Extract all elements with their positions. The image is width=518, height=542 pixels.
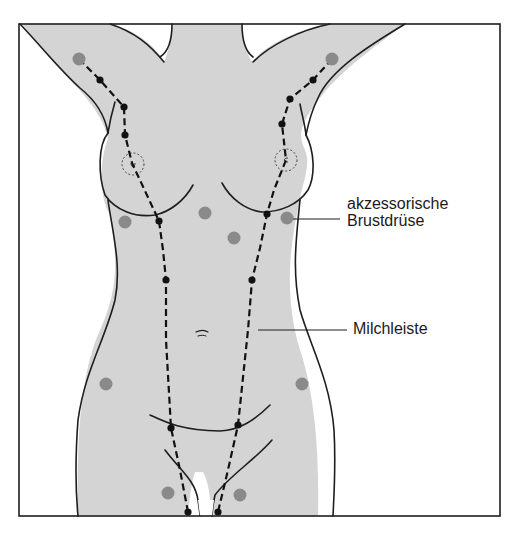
accessory-gland-dot — [119, 216, 132, 229]
milk-line-dot — [155, 217, 162, 224]
milk-line-dot — [214, 508, 221, 515]
accessory-gland-label: akzessorische Brustdrüse — [347, 195, 448, 229]
milk-line-dot — [121, 131, 128, 138]
milk-line-diagram — [0, 0, 518, 542]
accessory-gland-dot — [73, 53, 86, 66]
milk-line-dot — [184, 508, 191, 515]
accessory-gland-label-line1: akzessorische — [347, 195, 448, 212]
accessory-gland-dot — [228, 232, 241, 245]
accessory-gland-dot — [296, 378, 309, 391]
accessory-gland-dot — [162, 487, 175, 500]
milk-line-dot — [120, 103, 127, 110]
groin-gap — [198, 500, 214, 516]
accessory-gland-dot — [281, 212, 294, 225]
accessory-gland-dot — [326, 53, 339, 66]
accessory-gland-dot — [100, 378, 113, 391]
milk-line-dot — [162, 276, 169, 283]
milk-line-dot — [309, 76, 316, 83]
milk-line-dot — [234, 421, 241, 428]
accessory-gland-dot — [199, 207, 212, 220]
milk-line-dot — [278, 120, 285, 127]
body-silhouette — [22, 24, 405, 516]
milk-line-dot — [167, 424, 174, 431]
milk-line-dot — [263, 210, 270, 217]
accessory-gland-dot — [234, 489, 247, 502]
milk-line-dot — [286, 95, 293, 102]
milk-line-dot — [96, 76, 103, 83]
milk-line-label: Milchleiste — [353, 320, 428, 337]
milk-line-dot — [248, 276, 255, 283]
accessory-gland-label-line2: Brustdrüse — [347, 212, 448, 229]
